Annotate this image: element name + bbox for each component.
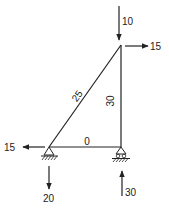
pin-support bbox=[41, 147, 58, 160]
vertical-force-label: 30 bbox=[105, 95, 116, 107]
top-vertical-load-label: 10 bbox=[122, 16, 134, 27]
truss-diagram: 25 30 0 10 15 bbox=[0, 0, 169, 213]
bottom-force-label: 0 bbox=[84, 136, 90, 147]
right-vertical-reaction-label: 30 bbox=[125, 187, 137, 198]
left-horizontal-reaction-label: 15 bbox=[4, 142, 16, 153]
left-vertical-reaction-label: 20 bbox=[43, 193, 55, 204]
roller-support bbox=[112, 147, 130, 162]
top-horizontal-load-label: 15 bbox=[150, 41, 162, 52]
diagonal-force-label: 25 bbox=[69, 88, 85, 104]
